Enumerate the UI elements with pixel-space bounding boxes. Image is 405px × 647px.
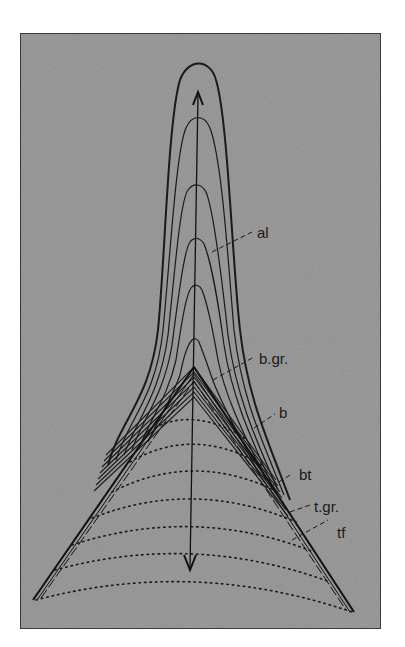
label-tf: tf	[337, 524, 346, 541]
label-b: b	[279, 404, 287, 421]
label-bt: bt	[299, 466, 312, 483]
label-t-gr: t.gr.	[314, 498, 339, 515]
label-b-gr: b.gr.	[259, 350, 288, 367]
label-al: al	[257, 224, 269, 241]
diagram-canvas: al b.gr. b bt t.gr. tf	[0, 0, 405, 647]
diagram-figure: al b.gr. b bt t.gr. tf	[0, 0, 405, 647]
